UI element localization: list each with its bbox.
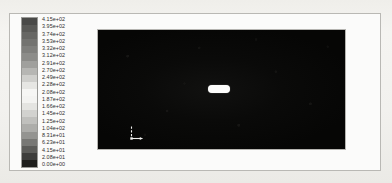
colorbar-band — [22, 75, 37, 82]
colorbar-label: 4.15e+01 — [42, 147, 96, 154]
colorbar-band — [22, 117, 37, 124]
colorbar-label: 1.25e+02 — [42, 118, 96, 125]
colorbar-label: 1.04e+02 — [42, 125, 96, 132]
colorbar-band — [22, 61, 37, 68]
colorbar-band — [22, 68, 37, 75]
colorbar-label: 1.87e+02 — [42, 96, 96, 103]
colorbar-band — [22, 103, 37, 110]
plot-baseline — [97, 150, 346, 152]
colorbar-label-list: 4.15e+023.95e+023.74e+023.53e+023.32e+02… — [42, 16, 96, 170]
colorbar-band — [22, 53, 37, 60]
colorbar-label: 1.66e+02 — [42, 103, 96, 110]
colorbar-label: 4.15e+02 — [42, 16, 96, 23]
colorbar-band — [22, 46, 37, 53]
colorbar-label: 2.49e+02 — [42, 74, 96, 81]
colorbar-label: 1.45e+02 — [42, 110, 96, 117]
colorbar-label: 2.08e+02 — [42, 89, 96, 96]
colorbar-label: 2.28e+02 — [42, 81, 96, 88]
colorbar-band — [22, 96, 37, 103]
figure-frame: 4.15e+023.95e+023.74e+023.53e+023.32e+02… — [9, 13, 381, 171]
colorbar-label: 3.32e+02 — [42, 45, 96, 52]
colorbar-label: 3.95e+02 — [42, 23, 96, 30]
contour-colorbar — [21, 17, 38, 168]
colorbar-band — [22, 146, 37, 153]
colorbar-band — [22, 110, 37, 117]
colorbar-band — [22, 124, 37, 131]
colorbar-label: 2.91e+02 — [42, 60, 96, 67]
figure-root: 4.15e+023.95e+023.74e+023.53e+023.32e+02… — [0, 0, 392, 183]
colorbar-band — [22, 89, 37, 96]
colorbar-band — [22, 18, 37, 25]
colorbar-label: 3.74e+02 — [42, 31, 96, 38]
colorbar-band — [22, 82, 37, 89]
colorbar-band — [22, 160, 37, 167]
colorbar-band — [22, 32, 37, 39]
body-object — [208, 85, 230, 93]
colorbar-label: 2.08e+01 — [42, 154, 96, 161]
colorbar-band — [22, 132, 37, 139]
contour-plot-canvas[interactable] — [97, 29, 346, 150]
axis-triad-icon — [128, 125, 148, 147]
colorbar-label: 3.53e+02 — [42, 38, 96, 45]
colorbar-band — [22, 153, 37, 160]
colorbar-label: 0.00e+00 — [42, 161, 96, 168]
colorbar-label: 8.31e+01 — [42, 132, 96, 139]
colorbar-band — [22, 139, 37, 146]
colorbar-band — [22, 25, 37, 32]
colorbar-label: 6.23e+01 — [42, 139, 96, 146]
contour-legend: 4.15e+023.95e+023.74e+023.53e+023.32e+02… — [21, 16, 96, 171]
colorbar-band — [22, 39, 37, 46]
colorbar-label: 3.12e+02 — [42, 52, 96, 59]
colorbar-label: 2.70e+02 — [42, 67, 96, 74]
